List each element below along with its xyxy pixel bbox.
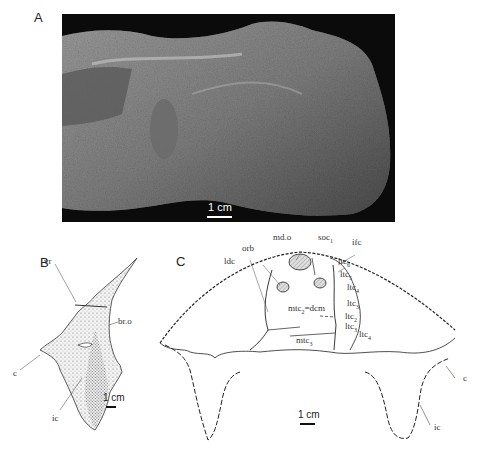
panel-c-label-ldc: ldc (224, 256, 235, 266)
panel-c-label-c: c (463, 373, 467, 383)
panel-c-label-ic: ic (434, 422, 441, 432)
panel-c-scale-label: 1 cm (298, 409, 320, 420)
panel-b-label-ic: ic (52, 413, 59, 423)
panel-b-label-vr: vr (44, 256, 52, 266)
panel-c-label-ltc4a: ltc4 (347, 282, 359, 294)
panel-b-scale-label: 1 cm (103, 392, 125, 403)
panel-b-label-c: c (13, 368, 17, 378)
panel-c-label-ltc3a: ltc3 (347, 298, 359, 310)
panel-b-drawing (20, 258, 137, 430)
panel-c-label-ltc4b: ltc4 (359, 329, 371, 341)
panel-c-label-mdo: md.o (273, 232, 291, 242)
panel-b-label-bro: br.o (118, 316, 132, 326)
panel-c-label-ltc3b: ltc3 (345, 321, 357, 333)
panel-c-label-orb: orb (242, 243, 254, 253)
panel-c-label-mtc3: mtc3 (296, 335, 313, 347)
panel-c-label-mtc2-dcm: mtc2=dcm (288, 303, 325, 315)
panel-c-label-ltc6: ltc6 (338, 256, 350, 268)
panel-c-label-soc1: soc1 (318, 232, 333, 244)
panel-c-label-ifc: ifc (352, 237, 362, 247)
panel-c-label-ltc5: ltc5 (340, 269, 352, 281)
line-drawings (0, 0, 481, 456)
panel-c-letter: C (176, 254, 185, 269)
